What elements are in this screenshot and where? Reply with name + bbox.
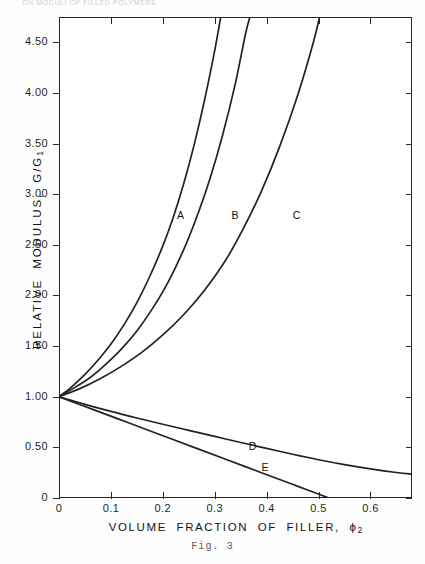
curve-e (59, 397, 329, 498)
x-tick-top (215, 18, 216, 24)
y-tick-right (406, 42, 412, 43)
y-tick (53, 447, 60, 448)
x-tick-label: 0.5 (304, 502, 334, 514)
x-tick-top (370, 18, 371, 24)
y-tick-right (406, 397, 412, 398)
x-tick (370, 492, 371, 499)
x-tick-label: 0.1 (96, 502, 126, 514)
x-tick (59, 492, 60, 499)
y-tick-right (406, 295, 412, 296)
x-tick-label: 0 (44, 502, 74, 514)
y-tick-label: 0.50 (6, 440, 48, 452)
y-tick (53, 144, 60, 145)
y-tick (53, 194, 60, 195)
y-tick (53, 295, 60, 296)
y-tick-right (406, 447, 412, 448)
x-tick-top (319, 18, 320, 24)
curve-b (59, 17, 252, 397)
y-tick-label: 0 (6, 491, 48, 503)
curve-label-e: E (262, 461, 269, 473)
curve-label-d: D (249, 440, 257, 452)
x-tick-top (163, 18, 164, 24)
x-tick (267, 492, 268, 499)
x-tick (111, 492, 112, 499)
x-tick-label: 0.6 (355, 502, 385, 514)
x-tick-top (267, 18, 268, 24)
curve-a (59, 17, 222, 397)
y-tick-right (406, 346, 412, 347)
y-tick-label: 4.00 (6, 86, 48, 98)
y-tick-right (406, 93, 412, 94)
x-tick-label: 0.4 (252, 502, 282, 514)
y-tick (53, 245, 60, 246)
curve-label-c: C (293, 209, 301, 221)
y-tick-right (406, 144, 412, 145)
y-tick-right (406, 498, 412, 499)
y-tick-right (406, 245, 412, 246)
y-tick (53, 346, 60, 347)
x-axis-title: VOLUME FRACTION OF FILLER, ϕ2 (59, 521, 412, 535)
x-tick (215, 492, 216, 499)
figure-container: 00.501.001.502.002.503.003.504.004.50 00… (0, 0, 425, 564)
x-tick (163, 492, 164, 499)
curve-label-b: B (232, 209, 239, 221)
y-tick-right (406, 194, 412, 195)
x-tick-label: 0.3 (200, 502, 230, 514)
y-tick (53, 42, 60, 43)
y-axis-title: RELATIVE MODULUS, G/G1 (31, 130, 45, 370)
x-tick-label: 0.2 (148, 502, 178, 514)
x-tick-top (59, 18, 60, 24)
y-tick-label: 1.00 (6, 390, 48, 402)
y-tick-label: 4.50 (6, 35, 48, 47)
y-tick (53, 397, 60, 398)
x-tick (319, 492, 320, 499)
y-tick (53, 93, 60, 94)
x-tick-top (111, 18, 112, 24)
curve-label-a: A (177, 209, 184, 221)
curves-layer (59, 17, 412, 498)
curve-c (59, 17, 321, 397)
figure-caption: Fig. 3 (0, 541, 425, 552)
